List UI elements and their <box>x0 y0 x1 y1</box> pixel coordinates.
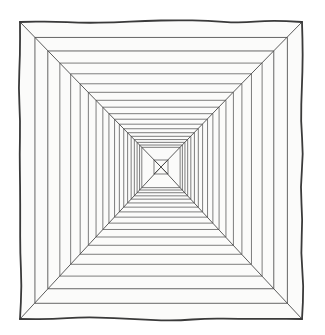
paper-tint <box>20 22 302 319</box>
perspective-drawing <box>0 0 325 335</box>
figure-canvas: Nested squares one-point perspective dra… <box>0 0 325 335</box>
paper-tint-fill <box>20 22 302 319</box>
